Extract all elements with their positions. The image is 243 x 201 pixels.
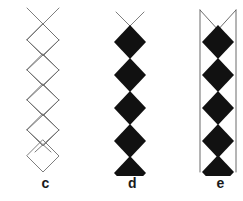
diamond-filled — [114, 124, 146, 158]
diamond-filled — [114, 25, 146, 59]
panel-label-d: d — [92, 174, 179, 192]
diamond-filled — [202, 124, 234, 158]
figure-root: c d — [0, 0, 243, 201]
diamond-chain-filled-diagram — [92, 0, 173, 176]
diamond-filled — [114, 156, 146, 176]
crossing-line-left — [116, 12, 130, 26]
diamond-chain-railed-diagram — [180, 0, 243, 176]
diamond-filled — [114, 58, 146, 92]
diamond-filled — [202, 91, 234, 125]
diamond-filled — [114, 91, 146, 125]
diamond-chain-outline-diagram — [5, 0, 86, 176]
figure-panel-e: e — [180, 0, 243, 201]
diamond-filled — [202, 58, 234, 92]
diamond-filled — [202, 155, 234, 176]
diamond-outline — [27, 114, 59, 146]
diamond-outline — [27, 24, 59, 56]
figure-panel-c: c — [5, 0, 86, 201]
panel-label-e: e — [180, 174, 243, 192]
crossing-line-right — [130, 12, 144, 26]
figure-panel-d: d — [92, 0, 173, 201]
diamond-outline — [27, 54, 59, 86]
diamond-outline — [27, 84, 59, 116]
diamond-filled — [202, 25, 234, 59]
